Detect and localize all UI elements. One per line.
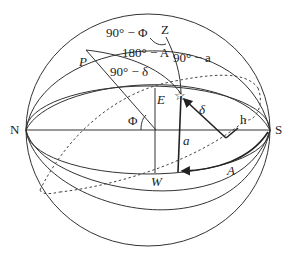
diagram-svg: ☆ N S Z P E W 90° − Φ 180° − A 90° − δ 9… (0, 0, 296, 259)
pole-zenith-angle-arc (150, 38, 166, 45)
label-coaltitude: 90° − a (173, 50, 211, 65)
label-pole: P (78, 54, 87, 69)
label-180-minus-A: 180° − A (122, 45, 170, 60)
label-codeclination: 90° − δ (110, 64, 148, 79)
label-azimuth: A (226, 163, 235, 178)
label-zenith: Z (161, 22, 169, 37)
label-declination: δ (199, 102, 206, 117)
celestial-sphere-diagram: ☆ N S Z P E W 90° − Φ 180° − A 90° − δ 9… (0, 0, 296, 259)
star-icon: ☆ (174, 88, 186, 103)
dashed-circle-left (40, 190, 60, 194)
label-south: S (275, 122, 282, 137)
label-latitude: Φ (128, 113, 138, 128)
label-east: E (156, 92, 165, 107)
label-colatitude: 90° − Φ (106, 25, 148, 40)
label-west: W (151, 174, 163, 189)
equator-arc-upper (26, 85, 270, 130)
label-hour-angle: h (240, 112, 247, 127)
label-altitude: a (183, 133, 190, 148)
altitude-line (178, 96, 181, 172)
meridian-arc-upper (26, 51, 270, 130)
label-north: N (10, 122, 20, 137)
